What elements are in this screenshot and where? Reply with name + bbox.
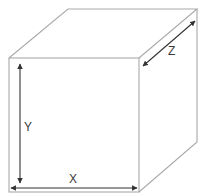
z-label: Z — [168, 44, 175, 58]
x-label: X — [69, 172, 77, 186]
y-label: Y — [24, 120, 32, 134]
cube-outline — [9, 9, 197, 192]
right-face — [139, 9, 197, 192]
cube-diagram: Y X Z — [0, 0, 204, 194]
